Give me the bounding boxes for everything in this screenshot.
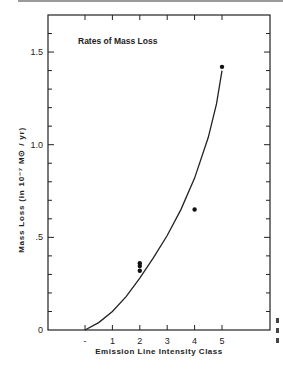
edge-fragment [276, 338, 279, 343]
chart-title: Rates of Mass Loss [78, 36, 158, 46]
tick-label: 0 [38, 325, 43, 335]
tick-label: 1 [110, 336, 115, 346]
axis-ticks [48, 15, 270, 330]
data-point [192, 207, 196, 211]
edge-fragment [276, 318, 279, 323]
tick-label: 1.5 [30, 47, 43, 57]
tick-label: .5 [35, 232, 43, 242]
mass-loss-chart: -123450.51.01.5 Rates of Mass Loss Emiss… [0, 0, 283, 372]
data-point [220, 65, 224, 69]
fit-curve [85, 71, 222, 330]
tick-label: - [84, 336, 87, 346]
tick-label: 3 [165, 336, 170, 346]
tick-label: 2 [137, 336, 142, 346]
tick-label: 1.0 [30, 140, 43, 150]
data-point [138, 264, 142, 268]
data-point [138, 269, 142, 273]
plot-frame [48, 15, 270, 330]
edge-fragment [276, 328, 279, 333]
data-points [138, 65, 225, 273]
y-axis-label: Mass Loss (in 10⁻⁷ M⊙ / yr) [17, 127, 26, 253]
x-axis-label: Emission Line Intensity Class [95, 347, 222, 356]
tick-label: 4 [192, 336, 197, 346]
tick-label: 5 [219, 336, 224, 346]
tick-labels: -123450.51.01.5 [30, 47, 224, 346]
